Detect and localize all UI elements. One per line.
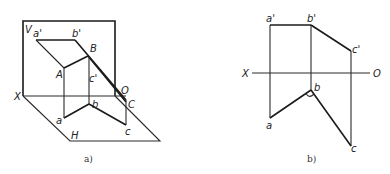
- label-V: V: [25, 24, 33, 35]
- label-b-prime: b': [72, 28, 81, 39]
- label-H: H: [71, 130, 79, 141]
- label-c-prime: c': [352, 44, 360, 55]
- caption-b: b): [307, 154, 316, 164]
- label-b: b: [92, 99, 98, 110]
- label-O: O: [373, 68, 381, 79]
- label-A: A: [55, 69, 63, 80]
- figure-b-orthographic: a' b' c' X O b a c b): [241, 13, 381, 164]
- line-b1c1: [311, 25, 351, 51]
- line-ab: [64, 104, 89, 118]
- label-a: a: [266, 120, 272, 131]
- caption-a: a): [84, 154, 93, 164]
- right-angle-mark: [306, 94, 314, 97]
- label-c: c: [351, 143, 357, 154]
- label-X: X: [241, 68, 250, 79]
- figure-a-pictorial: V a' b' B A c' X O C b a c H a): [13, 21, 160, 164]
- line-AB: [64, 56, 88, 68]
- label-O: O: [121, 85, 129, 96]
- label-X: X: [13, 91, 22, 102]
- line-bc: [311, 90, 351, 146]
- label-c: c: [125, 126, 131, 137]
- proj-a1-A: [36, 40, 64, 68]
- label-a: a: [56, 115, 62, 126]
- label-C: C: [128, 99, 135, 110]
- label-a-prime: a': [33, 28, 42, 39]
- label-b-prime: b': [307, 13, 316, 24]
- label-B: B: [90, 43, 97, 54]
- label-a-prime: a': [266, 13, 275, 24]
- line-ab: [270, 90, 311, 118]
- label-c-prime: c': [89, 73, 97, 84]
- projection-diagram: V a' b' B A c' X O C b a c H a) a': [0, 0, 390, 174]
- label-b: b: [314, 82, 320, 93]
